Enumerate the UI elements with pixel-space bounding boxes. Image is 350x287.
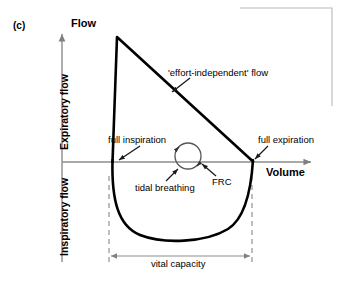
- x-axis-title: Volume: [266, 166, 305, 178]
- effort-independent-flow-label: 'effort-independent' flow: [168, 67, 268, 78]
- y-axis-title: Flow: [71, 17, 96, 29]
- tidal-loop-arrowhead-left: [176, 147, 180, 151]
- full-expiration-arrow: [255, 146, 268, 159]
- figure-border-rule: [240, 8, 332, 106]
- full-inspiration-label: full inspiration: [108, 134, 166, 145]
- full-inspiration-arrow: [119, 146, 140, 160]
- effort-independent-arrow: [172, 78, 190, 92]
- vital-capacity-label: vital capacity: [151, 258, 205, 269]
- frc-label: FRC: [212, 176, 232, 187]
- inspiratory-limb-curve: [112, 160, 253, 241]
- inspiratory-flow-axis-label: Inspiratory flow: [58, 178, 70, 256]
- full-expiration-label: full expiration: [258, 134, 314, 145]
- expiratory-flow-axis-label: Expiratory flow: [58, 74, 70, 150]
- frc-arrow: [202, 164, 216, 176]
- tidal-breathing-arrow: [166, 169, 178, 181]
- tidal-breathing-label: tidal breathing: [135, 182, 195, 193]
- flow-volume-loop-figure: (c) Flow Volume Expiratory flow Inspirat…: [0, 0, 350, 287]
- panel-id-label: (c): [13, 20, 25, 31]
